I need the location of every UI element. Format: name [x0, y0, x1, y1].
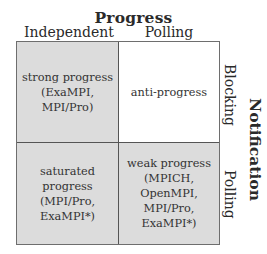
cell-weak-progress: weak progress (MPICH, OpenMPI, MPI/Pro, …: [119, 143, 219, 244]
cell-strong-progress: strong progress (ExaMPI, MPI/Pro): [17, 42, 118, 142]
cell-saturated-progress: saturated progress (MPI/Pro, ExaMPI*): [17, 143, 118, 244]
progress-matrix: strong progress (ExaMPI, MPI/Pro) anti-p…: [16, 41, 220, 245]
horizontal-divider: [17, 142, 219, 143]
column-label-polling: Polling: [118, 24, 220, 40]
vertical-divider: [118, 42, 119, 244]
column-label-independent: Independent: [10, 24, 128, 40]
row-label-polling: Polling: [222, 170, 238, 219]
notification-title: Notification: [246, 98, 265, 201]
cell-anti-progress: anti-progress: [119, 42, 219, 142]
row-label-blocking: Blocking: [222, 64, 238, 126]
